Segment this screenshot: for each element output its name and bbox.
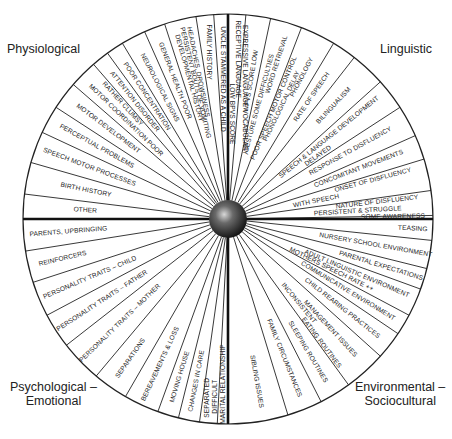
segment-label: OTHER: [73, 205, 97, 213]
quadrant-title-linguistic: Linguistic: [380, 42, 432, 56]
segment-label: DIFFICULT: [211, 380, 218, 414]
quadrant-title-psychological-emotional: Psychological – Emotional: [10, 380, 97, 408]
quadrant-title-line: Sociocultural: [355, 394, 445, 408]
quadrant-title-line: Psychological –: [10, 380, 97, 394]
segment-label: SEPARATED: [203, 378, 210, 418]
segment-label: FAMILY HISTORY: [206, 25, 213, 81]
quadrant-title-physiological: Physiological: [7, 42, 80, 56]
segment-label: SOME AWARENESS: [361, 212, 426, 220]
quadrant-title-line: Environmental –: [355, 380, 445, 394]
quadrant-title-environmental-sociocultural: Environmental – Sociocultural: [355, 380, 445, 408]
hub-sphere: [209, 200, 247, 238]
quadrant-title-line: Emotional: [10, 394, 97, 408]
wheel-diagram: OTHERBIRTH HISTORYSPEECH MOTOR PROCESSES…: [0, 0, 452, 439]
segment-label: LOW BPVS SCORE: [229, 84, 236, 146]
segment-label: MARITAL RELATIONSHIP: [219, 344, 226, 424]
segment-label: UNCLE STAMMERED AS A CHILD: [220, 26, 227, 132]
